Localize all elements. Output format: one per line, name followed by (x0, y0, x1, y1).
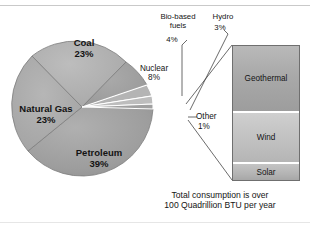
pie-label-bio-based-fuels: Bio-based fuels (152, 13, 204, 30)
pie-label-other-name: Other (196, 112, 230, 121)
pie-label-natural-gas: Natural Gas 23% (7, 104, 85, 125)
pie-label-nuclear: Nuclear 8% (133, 64, 175, 82)
pie-label-hydro-pct: 3% (207, 24, 233, 33)
pie-label-coal: Coal 23% (54, 38, 114, 59)
breakout-stacked-bar: Geothermal Wind Solar (232, 45, 300, 181)
pie-label-hydro-name: Hydro (206, 13, 240, 22)
pie-label-natural-gas-pct: 23% (36, 114, 55, 125)
pie-label-petroleum-name: Petroleum (76, 147, 122, 158)
pie-label-petroleum-pct: 39% (89, 158, 108, 169)
bar-segment-wind: Wind (233, 113, 299, 163)
pie-label-nuclear-name: Nuclear (140, 64, 168, 73)
bar-segment-geothermal: Geothermal (233, 46, 299, 112)
pie-label-nuclear-pct: 8% (148, 73, 160, 82)
pie-label-natural-gas-name: Natural Gas (19, 103, 72, 114)
bar-segment-geothermal-label: Geothermal (245, 74, 288, 83)
callout-upper (186, 45, 232, 104)
pie-label-petroleum: Petroleum 39% (62, 148, 136, 169)
pie-label-coal-name: Coal (74, 37, 95, 48)
figure-caption: Total consumption is over 100 Quadrillio… (132, 190, 308, 211)
pie-label-bio-pct: 4% (159, 36, 185, 45)
pie-label-coal-pct: 23% (74, 48, 93, 59)
leader-lines (182, 30, 232, 180)
figure-caption-line1: Total consumption is over (172, 190, 269, 200)
pie-label-bio-name-line2: fuels (170, 21, 186, 30)
pie-label-bio-name-line1: Bio-based (160, 12, 195, 21)
bar-segment-wind-label: Wind (257, 133, 276, 142)
bar-segment-solar: Solar (233, 164, 299, 180)
figure-canvas: Coal 23% Natural Gas 23% Petroleum 39% N… (0, 0, 310, 226)
figure-caption-line2: 100 Quadrillion BTU per year (164, 200, 275, 210)
leader-hydro (190, 34, 228, 110)
bar-segment-solar-label: Solar (256, 168, 275, 177)
pie-label-other-pct: 1% (198, 122, 224, 131)
